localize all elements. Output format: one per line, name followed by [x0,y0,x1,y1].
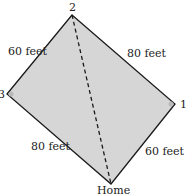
baseball-diamond-diagram: 2 3 1 Home 60 feet 80 feet 80 feet 60 fe… [0,0,187,195]
second-base-label: 2 [69,1,76,14]
third-base-label: 3 [0,88,5,101]
edge-label-home-first: 60 feet [145,145,185,158]
third-base-marker [9,92,14,97]
first-base-label: 1 [180,98,187,111]
edge-label-third-home: 80 feet [31,140,71,153]
edge-label-third-second: 60 feet [8,45,48,58]
first-base-marker [169,102,174,107]
edge-label-second-first: 80 feet [127,47,167,60]
home-plate-label: Home [97,184,130,195]
